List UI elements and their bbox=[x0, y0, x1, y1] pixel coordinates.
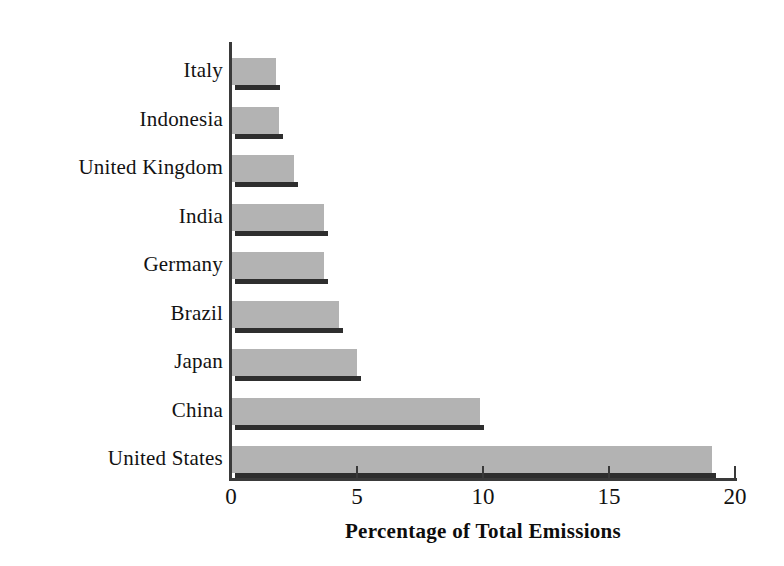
emissions-bar-chart: ItalyIndonesiaUnited KingdomIndiaGermany… bbox=[0, 0, 784, 566]
bar-shadow bbox=[235, 425, 484, 430]
bar-shadow bbox=[235, 376, 361, 381]
bar-body bbox=[231, 446, 712, 473]
category-label: China bbox=[13, 400, 223, 421]
bar-united-states bbox=[231, 446, 716, 478]
bar-body bbox=[231, 107, 279, 134]
category-label: United States bbox=[13, 448, 223, 469]
category-label: Japan bbox=[13, 351, 223, 372]
x-axis-tick-mark bbox=[356, 466, 358, 479]
bar-italy bbox=[231, 58, 280, 90]
bar-body bbox=[231, 349, 357, 376]
x-axis-tick-mark bbox=[230, 466, 232, 479]
bar-body bbox=[231, 204, 324, 231]
bar-germany bbox=[231, 252, 328, 284]
category-label: Italy bbox=[13, 60, 223, 81]
bar-shadow bbox=[235, 279, 328, 284]
bar-body bbox=[231, 398, 480, 425]
category-label: Germany bbox=[13, 254, 223, 275]
bar-shadow bbox=[235, 182, 298, 187]
bar-body bbox=[231, 58, 276, 85]
x-axis-tick-mark bbox=[608, 466, 610, 479]
bar-shadow bbox=[235, 231, 328, 236]
x-axis-tick-label: 20 bbox=[705, 484, 765, 510]
bar-body bbox=[231, 155, 294, 182]
bar-shadow bbox=[235, 328, 343, 333]
category-label: United Kingdom bbox=[13, 157, 223, 178]
category-label: India bbox=[13, 206, 223, 227]
plot-area bbox=[231, 42, 735, 479]
category-label: Brazil bbox=[13, 303, 223, 324]
x-axis-tick-label: 0 bbox=[201, 484, 261, 510]
x-axis-tick-label: 10 bbox=[453, 484, 513, 510]
bar-body bbox=[231, 301, 339, 328]
x-axis-tick-mark bbox=[734, 466, 736, 479]
bar-japan bbox=[231, 349, 361, 381]
y-axis-line bbox=[229, 42, 232, 480]
x-axis-tick-label: 5 bbox=[327, 484, 387, 510]
x-axis-tick-label: 15 bbox=[579, 484, 639, 510]
bar-india bbox=[231, 204, 328, 236]
x-axis-title: Percentage of Total Emissions bbox=[231, 519, 735, 544]
bar-brazil bbox=[231, 301, 343, 333]
bar-body bbox=[231, 252, 324, 279]
x-axis-tick-mark bbox=[482, 466, 484, 479]
bar-indonesia bbox=[231, 107, 283, 139]
bar-china bbox=[231, 398, 484, 430]
category-label: Indonesia bbox=[13, 109, 223, 130]
bar-united-kingdom bbox=[231, 155, 298, 187]
bar-shadow bbox=[235, 85, 280, 90]
bar-shadow bbox=[235, 134, 283, 139]
